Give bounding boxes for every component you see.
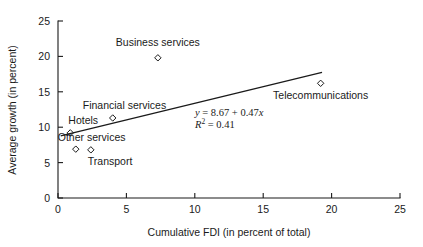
x-tick-label: 0 <box>55 203 61 215</box>
x-axis-title: Cumulative FDI (in percent of total) <box>148 226 311 238</box>
x-tick-label: 25 <box>394 203 406 215</box>
data-point-label: Business services <box>116 36 200 48</box>
data-point-marker <box>155 55 161 61</box>
y-tick-label: 25 <box>38 15 50 27</box>
data-point-labels: HotelsOther servicesTransportFinancial s… <box>58 36 368 167</box>
data-point-label: Telecommunications <box>273 89 368 101</box>
x-tick-label: 5 <box>123 203 129 215</box>
y-tick-label: 15 <box>38 86 50 98</box>
data-point-marker <box>88 147 94 153</box>
data-point-label: Financial services <box>83 99 166 111</box>
y-axis-ticks: 0510152025 <box>38 15 63 204</box>
chart-canvas: 0510152025 0510152025 HotelsOther servic… <box>0 0 423 247</box>
x-tick-label: 20 <box>326 203 338 215</box>
data-point-label: Transport <box>88 155 133 167</box>
x-tick-label: 10 <box>189 203 201 215</box>
y-axis-title: Average growth (in percent) <box>6 45 18 174</box>
x-axis-ticks: 0510152025 <box>55 193 406 215</box>
y-tick-label: 10 <box>38 121 50 133</box>
data-point-label: Hotels <box>68 114 98 126</box>
data-point-marker <box>317 80 323 86</box>
data-point-marker <box>110 115 116 121</box>
data-point-label: Other services <box>58 131 126 143</box>
scatter-chart-figure: 0510152025 0510152025 HotelsOther servic… <box>0 0 423 247</box>
data-group: HotelsOther servicesTransportFinancial s… <box>58 36 368 167</box>
x-tick-label: 15 <box>257 203 269 215</box>
y-tick-label: 20 <box>38 50 50 62</box>
y-tick-label: 0 <box>44 192 50 204</box>
r-squared-label: R2 = 0.41 <box>194 117 235 131</box>
annotation-group: y = 8.67 + 0.47x R2 = 0.41 <box>194 107 264 130</box>
data-point-marker <box>73 146 79 152</box>
y-tick-label: 5 <box>44 157 50 169</box>
